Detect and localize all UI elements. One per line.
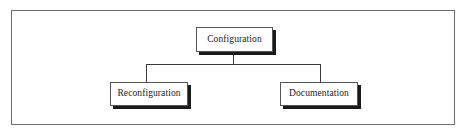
node-reconfiguration[interactable]: Reconfiguration bbox=[110, 82, 188, 106]
node-documentation-label: Documentation bbox=[289, 89, 349, 99]
connector-root-stem bbox=[233, 52, 234, 64]
node-documentation[interactable]: Documentation bbox=[280, 82, 358, 106]
connector-crossbar bbox=[146, 64, 321, 65]
node-configuration[interactable]: Configuration bbox=[196, 27, 273, 52]
diagram-canvas: Configuration Reconfiguration Documentat… bbox=[0, 0, 463, 133]
node-reconfiguration-label: Reconfiguration bbox=[117, 89, 180, 99]
connector-left-drop bbox=[146, 64, 147, 82]
connector-right-drop bbox=[320, 64, 321, 82]
node-configuration-label: Configuration bbox=[207, 35, 262, 45]
